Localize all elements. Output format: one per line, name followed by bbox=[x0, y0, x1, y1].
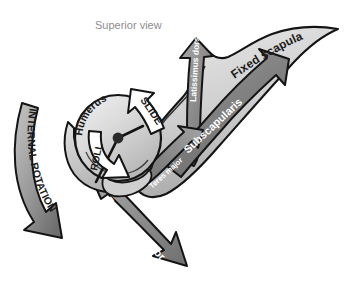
anatomy-diagram-svg: Superior view Humerus Fixed scapula ROLL… bbox=[0, 0, 352, 282]
pectoralis-major-label: Pectoralis major bbox=[104, 194, 168, 262]
figure-root: Superior view Humerus Fixed scapula ROLL… bbox=[0, 0, 352, 282]
figure-title: Superior view bbox=[95, 19, 162, 31]
